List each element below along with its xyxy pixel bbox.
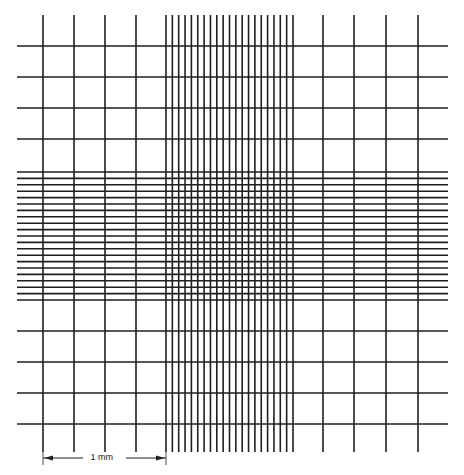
scale-bar-arrow-right-icon — [156, 456, 165, 461]
scale-bar-arrow-left-icon — [44, 456, 53, 461]
scale-bar-label: 1 mm — [88, 452, 117, 462]
hemocytometer-grid — [0, 0, 464, 475]
